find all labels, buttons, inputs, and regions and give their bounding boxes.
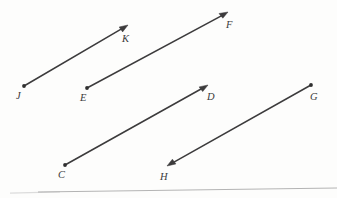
page-edge-line [38, 188, 337, 192]
diagram-canvas: K F J E D G C H [0, 0, 337, 198]
ray-e-f-line [87, 14, 225, 88]
ray-j-k-endpoint-dot [22, 84, 26, 88]
label-point-k: K [122, 34, 129, 45]
label-point-d: D [207, 92, 215, 103]
label-point-c: C [58, 170, 65, 181]
label-point-f: F [226, 20, 232, 31]
geometry-diagram-svg [0, 0, 337, 198]
label-point-h: H [160, 172, 168, 183]
label-point-j: J [16, 91, 21, 102]
ray-j-k-arrowhead [119, 25, 128, 32]
ray-g-h-arrowhead [167, 159, 176, 166]
ray-g-h-line [170, 85, 311, 164]
ray-j-k-line [24, 27, 125, 86]
ray-e-f [85, 12, 228, 90]
ray-e-f-endpoint-dot [85, 86, 89, 90]
label-point-g: G [310, 92, 318, 103]
ray-j-k [22, 25, 128, 88]
label-point-e: E [80, 93, 86, 104]
ray-g-h-endpoint-dot [309, 83, 313, 87]
ray-c-d-endpoint-dot [63, 163, 67, 167]
